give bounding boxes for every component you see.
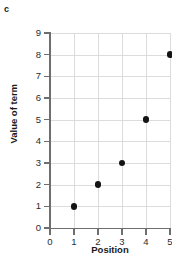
gridline-horizontal — [50, 185, 170, 186]
gridline-horizontal — [50, 120, 170, 121]
y-axis-tick-label: 7 — [21, 71, 41, 81]
y-axis-tick-mark — [44, 32, 50, 33]
x-axis-tick-mark — [121, 229, 122, 235]
x-axis-tick-label: 0 — [40, 237, 60, 247]
y-axis-tick-label: 1 — [21, 201, 41, 211]
x-axis-tick-mark — [97, 229, 98, 235]
x-axis-tick-label: 1 — [64, 237, 84, 247]
x-axis-tick-label: 2 — [88, 237, 108, 247]
gridline-vertical — [74, 33, 75, 228]
data-point — [71, 203, 77, 209]
y-axis-tick-label: 4 — [21, 136, 41, 146]
data-point — [167, 51, 172, 57]
x-axis-tick-mark — [49, 229, 50, 235]
x-axis-tick-mark — [169, 229, 170, 235]
gridline-horizontal — [50, 76, 170, 77]
x-axis-line — [49, 228, 171, 230]
y-axis-tick-mark — [44, 97, 50, 98]
gridline-horizontal — [50, 141, 170, 142]
y-axis-tick-label: 5 — [21, 115, 41, 125]
gridline-horizontal — [50, 206, 170, 207]
y-axis-tick-mark — [44, 184, 50, 185]
gridline-horizontal — [50, 98, 170, 99]
y-axis-title: Value of term — [9, 69, 19, 159]
y-axis-tick-mark — [44, 76, 50, 77]
x-axis-tick-mark — [145, 229, 146, 235]
y-axis-tick-mark — [44, 141, 50, 142]
y-axis-tick-label: 8 — [21, 50, 41, 60]
y-axis-tick-label: 3 — [21, 158, 41, 168]
x-axis-tick-mark — [73, 229, 74, 235]
plot-area — [50, 33, 170, 228]
y-axis-tick-label: 6 — [21, 93, 41, 103]
gridline-vertical — [98, 33, 99, 228]
y-axis-tick-label: 2 — [21, 180, 41, 190]
gridline-horizontal — [50, 33, 170, 34]
y-axis-tick-mark — [44, 54, 50, 55]
y-axis-tick-label: 9 — [21, 28, 41, 38]
gridline-horizontal — [50, 55, 170, 56]
data-point — [143, 116, 149, 122]
gridline-vertical — [122, 33, 123, 228]
gridline-vertical — [146, 33, 147, 228]
x-axis-tick-label: 5 — [160, 237, 172, 247]
x-axis-tick-label: 3 — [112, 237, 132, 247]
chart-figure: c Value of term Position 0123456789 0123… — [0, 0, 172, 260]
y-axis-tick-mark — [44, 119, 50, 120]
y-axis-tick-mark — [44, 162, 50, 163]
gridline-vertical — [170, 33, 171, 228]
x-axis-tick-label: 4 — [136, 237, 156, 247]
y-axis-line — [49, 32, 51, 229]
gridline-horizontal — [50, 163, 170, 164]
part-label: c — [4, 5, 9, 14]
data-point — [95, 181, 101, 187]
data-point — [119, 160, 125, 166]
y-axis-tick-label: 0 — [21, 223, 41, 233]
y-axis-tick-mark — [44, 206, 50, 207]
